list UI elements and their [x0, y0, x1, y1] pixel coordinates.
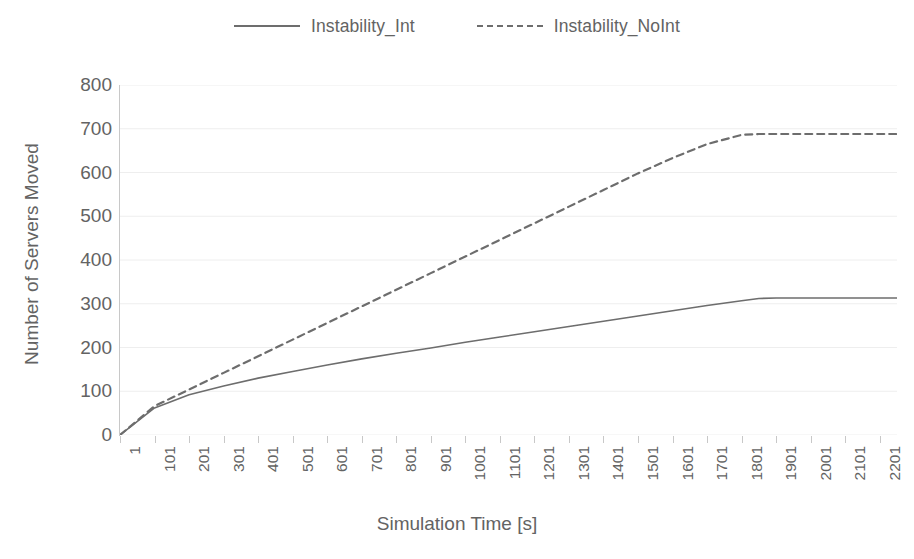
x-axis-tick-label: 1401 — [609, 446, 627, 480]
x-axis-tick-label: 2201 — [886, 446, 904, 480]
y-axis-tick-label: 0 — [101, 424, 112, 446]
x-axis-tick-mark — [500, 436, 501, 443]
x-axis-tick-mark — [327, 436, 328, 443]
x-axis-tick-mark — [293, 436, 294, 443]
y-axis-tick-label: 700 — [80, 118, 112, 140]
x-axis-tick-label: 1901 — [782, 446, 800, 480]
legend-label-instability-noint: Instability_NoInt — [554, 16, 680, 37]
x-axis-tick-labels: 1101201301401501601701801901100111011201… — [120, 436, 897, 508]
y-axis-title: Number of Servers Moved — [21, 104, 43, 404]
x-axis-tick-mark — [811, 436, 812, 443]
y-axis-tick-label: 100 — [80, 380, 112, 402]
series-line-1 — [120, 134, 897, 435]
x-axis-tick-label: 1201 — [540, 446, 558, 480]
x-axis-tick-label: 2101 — [851, 446, 869, 480]
y-axis-tick-label: 300 — [80, 293, 112, 315]
series-paths — [120, 134, 897, 435]
x-axis-tick-label: 1501 — [644, 446, 662, 480]
x-axis-tick-mark — [224, 436, 225, 443]
x-axis-tick-label: 801 — [402, 446, 420, 472]
x-axis-tick-mark — [569, 436, 570, 443]
x-axis-tick-mark — [120, 436, 121, 443]
plot-area — [120, 85, 897, 435]
x-axis-tick-mark — [362, 436, 363, 443]
x-axis-tick-mark — [673, 436, 674, 443]
x-axis-tick-label: 1 — [126, 446, 144, 455]
y-axis-tick-label: 600 — [80, 162, 112, 184]
plot-svg — [120, 85, 897, 435]
x-axis-tick-label: 501 — [299, 446, 317, 472]
x-axis-tick-mark — [603, 436, 604, 443]
x-axis-tick-mark — [776, 436, 777, 443]
x-axis-tick-mark — [258, 436, 259, 443]
x-axis-tick-label: 1601 — [679, 446, 697, 480]
x-axis-tick-mark — [431, 436, 432, 443]
y-axis-tick-labels: 0100200300400500600700800 — [52, 85, 112, 435]
x-axis-tick-mark — [189, 436, 190, 443]
x-axis-title: Simulation Time [s] — [0, 513, 914, 535]
x-axis-tick-mark — [845, 436, 846, 443]
y-axis-tick-label: 500 — [80, 205, 112, 227]
x-axis-tick-label: 601 — [333, 446, 351, 472]
x-axis-tick-label: 1301 — [575, 446, 593, 480]
x-axis-tick-label: 2001 — [817, 446, 835, 480]
x-axis-tick-label: 1001 — [471, 446, 489, 480]
x-axis-tick-mark — [707, 436, 708, 443]
y-axis-tick-label: 800 — [80, 74, 112, 96]
x-axis-tick-mark — [155, 436, 156, 443]
y-axis-tick-label: 400 — [80, 249, 112, 271]
x-axis-tick-mark — [465, 436, 466, 443]
x-axis-tick-label: 101 — [161, 446, 179, 472]
x-axis-tick-label: 301 — [230, 446, 248, 472]
x-axis-tick-label: 401 — [264, 446, 282, 472]
x-axis-tick-mark — [396, 436, 397, 443]
x-axis-tick-mark — [534, 436, 535, 443]
legend-item-instability-int: Instability_Int — [234, 16, 415, 37]
x-axis-tick-label: 201 — [195, 446, 213, 472]
chart-legend: Instability_Int Instability_NoInt — [0, 13, 914, 39]
legend-item-instability-noint: Instability_NoInt — [477, 16, 680, 37]
x-axis-tick-mark — [880, 436, 881, 443]
chart-container: Instability_Int Instability_NoInt 010020… — [0, 0, 914, 559]
x-axis-tick-label: 701 — [368, 446, 386, 472]
x-axis-tick-label: 901 — [437, 446, 455, 472]
x-axis-tick-mark — [638, 436, 639, 443]
x-axis-tick-label: 1101 — [506, 446, 524, 479]
legend-line-dashed-icon — [477, 25, 543, 27]
x-axis-tick-label: 1701 — [713, 446, 731, 480]
legend-label-instability-int: Instability_Int — [311, 16, 415, 37]
x-axis-tick-label: 1801 — [748, 446, 766, 480]
x-axis-tick-mark — [742, 436, 743, 443]
legend-line-solid-icon — [234, 25, 300, 27]
y-axis-tick-label: 200 — [80, 337, 112, 359]
